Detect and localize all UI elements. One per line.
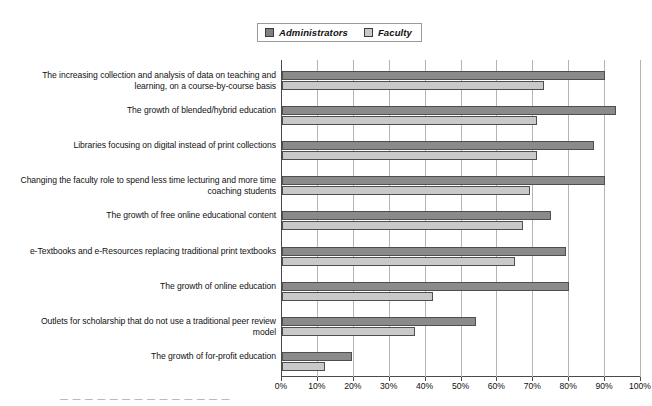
bar-administrators[interactable] — [282, 352, 352, 361]
category-label: The growth of for-profit education — [18, 351, 276, 362]
x-tick-label: 50% — [452, 381, 469, 391]
bar-administrators[interactable] — [282, 71, 605, 80]
legend-swatch-administrators — [265, 28, 274, 37]
legend-item-administrators[interactable]: Administrators — [265, 27, 348, 38]
x-tick-label: 0% — [275, 381, 287, 391]
bar-administrators[interactable] — [282, 176, 605, 185]
x-tick-label: 80% — [560, 381, 577, 391]
category-label: e-Textbooks and e-Resources replacing tr… — [18, 246, 276, 257]
chart-legend: Administrators Faculty — [257, 23, 422, 42]
footer-caption: — — — — — — — — — — — — — — — [0, 399, 652, 406]
bar-faculty[interactable] — [282, 362, 325, 371]
category-label: The growth of blended/hybrid education — [18, 105, 276, 116]
bar-faculty[interactable] — [282, 257, 515, 266]
bar-faculty[interactable] — [282, 81, 544, 90]
bar-administrators[interactable] — [282, 282, 569, 291]
x-tick-label: 90% — [595, 381, 612, 391]
bar-faculty[interactable] — [282, 116, 537, 125]
category-label: Changing the faculty role to spend less … — [18, 175, 276, 197]
bar-faculty[interactable] — [282, 186, 530, 195]
x-tick-label: 30% — [380, 381, 397, 391]
bar-administrators[interactable] — [282, 247, 566, 256]
x-tick-label: 100% — [629, 381, 651, 391]
legend-item-faculty[interactable]: Faculty — [364, 27, 412, 38]
x-tick-label: 10% — [308, 381, 325, 391]
bar-faculty[interactable] — [282, 221, 523, 230]
x-tick-label: 40% — [416, 381, 433, 391]
x-tick-label: 70% — [524, 381, 541, 391]
category-label: The growth of free online educational co… — [18, 210, 276, 221]
bar-administrators[interactable] — [282, 317, 476, 326]
category-label: The growth of online education — [18, 281, 276, 292]
category-label: Outlets for scholarship that do not use … — [18, 316, 276, 338]
legend-label-administrators: Administrators — [279, 27, 348, 38]
x-tick-label: 20% — [344, 381, 361, 391]
bar-administrators[interactable] — [282, 211, 551, 220]
bar-chart: Administrators Faculty The increasing co… — [0, 0, 652, 406]
bar-faculty[interactable] — [282, 151, 537, 160]
x-tick-label: 60% — [488, 381, 505, 391]
bar-faculty[interactable] — [282, 292, 433, 301]
bar-faculty[interactable] — [282, 327, 415, 336]
legend-swatch-faculty — [364, 28, 373, 37]
gridline — [640, 60, 641, 377]
bar-administrators[interactable] — [282, 106, 616, 115]
category-axis-labels: The increasing collection and analysis o… — [14, 60, 276, 377]
category-label: Libraries focusing on digital instead of… — [18, 140, 276, 151]
bar-administrators[interactable] — [282, 141, 594, 150]
legend-label-faculty: Faculty — [378, 27, 412, 38]
plot-area — [281, 60, 640, 377]
category-label: The increasing collection and analysis o… — [18, 70, 276, 92]
footer-caption-text: — — — — — — — — — — — — — — — [60, 399, 231, 403]
